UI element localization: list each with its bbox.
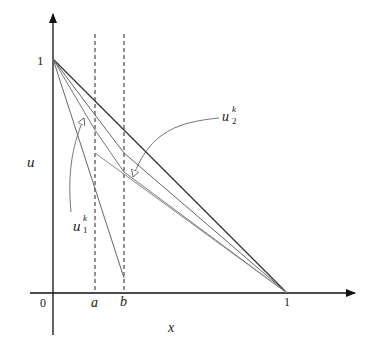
u2-base: u bbox=[222, 110, 229, 124]
x-tick-a-label: a bbox=[91, 296, 98, 310]
u1-subscript: 1 bbox=[83, 226, 88, 235]
u1-base: u bbox=[73, 219, 81, 234]
y-axis-label: u bbox=[27, 155, 35, 170]
u2-subscript: 2 bbox=[232, 117, 237, 126]
x-tick-b-label: b bbox=[120, 295, 127, 309]
x-axis-label: x bbox=[168, 321, 174, 335]
u2-pointer-arrow bbox=[133, 118, 219, 177]
origin-label: 0 bbox=[40, 297, 46, 309]
steep-line bbox=[53, 59, 124, 278]
linear-line bbox=[53, 59, 287, 293]
u1-superscript: k bbox=[83, 214, 87, 223]
y-tick-1-label: 1 bbox=[37, 54, 44, 67]
diagram-canvas bbox=[0, 0, 365, 352]
u1-annotation: u k 1 bbox=[73, 214, 95, 236]
x-tick-1-label: 1 bbox=[284, 296, 290, 308]
u2-superscript: k bbox=[232, 105, 236, 114]
u2-annotation: u k 2 bbox=[222, 110, 244, 132]
